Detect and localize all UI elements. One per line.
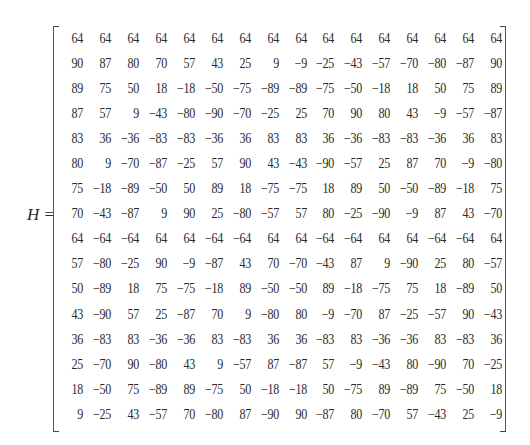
matrix-cell: −80 <box>254 307 278 323</box>
matrix-cell: −25 <box>338 206 362 222</box>
matrix-cell: −64 <box>227 231 251 247</box>
matrix-cell: −75 <box>282 181 306 197</box>
matrix-cell: 83 <box>199 332 223 348</box>
matrix-cell: −87 <box>171 307 195 323</box>
matrix-cell: −57 <box>338 156 362 172</box>
matrix-cell: 18 <box>478 382 502 398</box>
matrix-cell: −75 <box>199 382 223 398</box>
matrix-cell: 70 <box>199 307 223 323</box>
matrix-cell: 64 <box>254 31 278 47</box>
matrix-cell: 64 <box>422 31 446 47</box>
matrix-cell: −43 <box>338 56 362 72</box>
matrix-cell: 64 <box>394 231 418 247</box>
matrix-cell: −89 <box>282 81 306 97</box>
matrix-cell: −70 <box>394 56 418 72</box>
matrix-cell: 18 <box>310 181 334 197</box>
matrix-cell: −90 <box>394 256 418 272</box>
matrix-cell: −9 <box>282 56 306 72</box>
matrix-cell: 64 <box>87 31 111 47</box>
matrix-row: 75−18−89−50508918−75−75188950−50−89−1875 <box>55 177 502 202</box>
matrix-cell: 64 <box>450 31 474 47</box>
matrix-cell: −57 <box>143 407 167 423</box>
matrix-cell: −25 <box>478 357 502 373</box>
matrix-cell: −90 <box>422 357 446 373</box>
matrix-cell: 50 <box>59 281 83 297</box>
matrix-cell: 64 <box>478 231 502 247</box>
matrix-cell: −87 <box>115 206 139 222</box>
matrix-cell: 64 <box>282 31 306 47</box>
matrix-cell: −25 <box>87 407 111 423</box>
matrix-cell: 50 <box>227 382 251 398</box>
matrix-cell: −36 <box>115 131 139 147</box>
matrix-cell: −83 <box>310 332 334 348</box>
matrix-cell: 90 <box>115 357 139 373</box>
matrix-cell: 36 <box>282 332 306 348</box>
matrix-cell: 70 <box>422 156 446 172</box>
matrix-cell: 36 <box>59 332 83 348</box>
matrix-cell: −70 <box>338 307 362 323</box>
matrix-cell: −50 <box>338 81 362 97</box>
matrix-cell: −18 <box>199 281 223 297</box>
matrix-cell: 43 <box>171 357 195 373</box>
right-bracket <box>500 26 506 432</box>
matrix-cell: 36 <box>227 131 251 147</box>
matrix-row: 64−64−646464−64−646464−64−646464−64−6464 <box>55 227 502 252</box>
matrix-cell: 83 <box>282 131 306 147</box>
matrix-cell: −9 <box>394 206 418 222</box>
matrix-cell: 9 <box>199 357 223 373</box>
matrix-cell: 64 <box>59 231 83 247</box>
matrix-cell: 90 <box>59 56 83 72</box>
matrix-cell: −57 <box>450 106 474 122</box>
matrix-cell: 80 <box>282 307 306 323</box>
matrix-cell: −89 <box>422 181 446 197</box>
matrix-cell: −50 <box>143 181 167 197</box>
matrix-cell: 64 <box>227 31 251 47</box>
matrix-cell: −36 <box>394 332 418 348</box>
matrix-row: 43−905725−87709−8080−9−7087−25−5790−43 <box>55 302 502 327</box>
matrix-cell: 57 <box>115 307 139 323</box>
matrix-equation: H = 646464646464646464646464646464649087… <box>0 0 530 445</box>
matrix-cell: −87 <box>282 357 306 373</box>
matrix-cell: 18 <box>143 81 167 97</box>
matrix-cell: −36 <box>143 332 167 348</box>
matrix-cell: −80 <box>227 206 251 222</box>
matrix-cell: −18 <box>366 81 390 97</box>
matrix-row: 89755018−18−50−75−89−89−75−50−1818507589 <box>55 76 502 101</box>
matrix-cell: −80 <box>478 156 502 172</box>
matrix-cell: −57 <box>366 56 390 72</box>
matrix-cell: −89 <box>115 181 139 197</box>
matrix-cell: −36 <box>199 131 223 147</box>
matrix-cell: 43 <box>59 307 83 323</box>
matrix-cell: −64 <box>450 231 474 247</box>
matrix-cell: 70 <box>143 56 167 72</box>
matrix-cell: −75 <box>338 382 362 398</box>
matrix-cell: −83 <box>366 131 390 147</box>
matrix-cell: −57 <box>478 256 502 272</box>
matrix-cell: −18 <box>282 382 306 398</box>
matrix-cell: −87 <box>143 156 167 172</box>
matrix-cell: 50 <box>310 382 334 398</box>
matrix-cell: 18 <box>422 281 446 297</box>
matrix-cell: −50 <box>282 281 306 297</box>
matrix-cell: 87 <box>394 156 418 172</box>
matrix-cell: −43 <box>87 206 111 222</box>
matrix-cell: 89 <box>366 382 390 398</box>
matrix-cell: −9 <box>478 407 502 423</box>
matrix-cell: 64 <box>59 31 83 47</box>
matrix-cell: −80 <box>87 256 111 272</box>
matrix-cell: −64 <box>115 231 139 247</box>
matrix-cell: 36 <box>478 332 502 348</box>
matrix-cell: 87 <box>366 307 390 323</box>
matrix-cell: 89 <box>59 81 83 97</box>
matrix-cell: 43 <box>254 156 278 172</box>
matrix-cell: −43 <box>310 256 334 272</box>
matrix-cell: 75 <box>394 281 418 297</box>
matrix-cell: −70 <box>282 256 306 272</box>
matrix-cell: −89 <box>450 281 474 297</box>
matrix-cell: 87 <box>59 106 83 122</box>
matrix-cell: 43 <box>227 256 251 272</box>
matrix-cell: 75 <box>59 181 83 197</box>
matrix-cell: 25 <box>422 256 446 272</box>
matrix-cell: 90 <box>227 156 251 172</box>
matrix-cell: 90 <box>450 307 474 323</box>
